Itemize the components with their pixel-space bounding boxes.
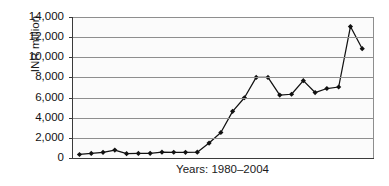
data-point-marker — [336, 84, 341, 89]
series-polyline — [79, 27, 362, 155]
data-point-marker — [159, 150, 164, 155]
gridline — [73, 118, 374, 119]
data-point-marker — [100, 150, 105, 155]
y-tick-mark — [69, 77, 73, 78]
y-tick-label: 0 — [58, 152, 64, 164]
data-series-line — [73, 17, 374, 158]
data-point-marker — [171, 150, 176, 155]
gridline — [73, 98, 374, 99]
data-point-marker — [89, 151, 94, 156]
y-tick-mark — [69, 17, 73, 18]
y-tick-label: 14,000 — [29, 11, 64, 23]
data-point-marker — [148, 151, 153, 156]
y-tick-label: 8,000 — [35, 72, 64, 84]
data-point-marker — [124, 151, 129, 156]
y-tick-label: 10,000 — [29, 52, 64, 64]
chart-figure: INR million 02,0004,0006,0008,00010,0001… — [0, 0, 389, 186]
gridline — [73, 77, 374, 78]
data-point-marker — [112, 147, 117, 152]
y-axis-tick-labels: 02,0004,0006,0008,00010,00012,00014,000 — [0, 0, 68, 186]
data-point-marker — [348, 24, 353, 29]
y-tick-mark — [69, 118, 73, 119]
y-tick-mark — [69, 98, 73, 99]
y-tick-label: 6,000 — [35, 92, 64, 104]
gridline — [73, 138, 374, 139]
data-point-marker — [77, 152, 82, 157]
y-tick-mark — [69, 158, 73, 159]
data-point-marker — [183, 150, 188, 155]
y-tick-label: 12,000 — [29, 31, 64, 43]
plot-area — [72, 17, 374, 159]
data-point-marker — [136, 151, 141, 156]
gridline — [73, 57, 374, 58]
gridline — [73, 37, 374, 38]
data-point-marker — [360, 46, 365, 51]
x-axis-title: Years: 1980–2004 — [72, 163, 373, 175]
data-point-marker — [324, 86, 329, 91]
y-tick-label: 4,000 — [35, 112, 64, 124]
y-tick-mark — [69, 37, 73, 38]
y-tick-label: 2,000 — [35, 132, 64, 144]
y-tick-mark — [69, 138, 73, 139]
y-tick-mark — [69, 57, 73, 58]
